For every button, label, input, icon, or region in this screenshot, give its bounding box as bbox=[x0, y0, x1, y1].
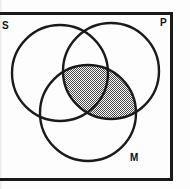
circle-label-p: P bbox=[160, 18, 167, 28]
venn-diagram-canvas bbox=[0, 0, 190, 189]
circle-label-m: M bbox=[130, 153, 138, 163]
venn-diagram-figure: S P M bbox=[0, 0, 190, 189]
circle-label-s: S bbox=[2, 21, 9, 31]
